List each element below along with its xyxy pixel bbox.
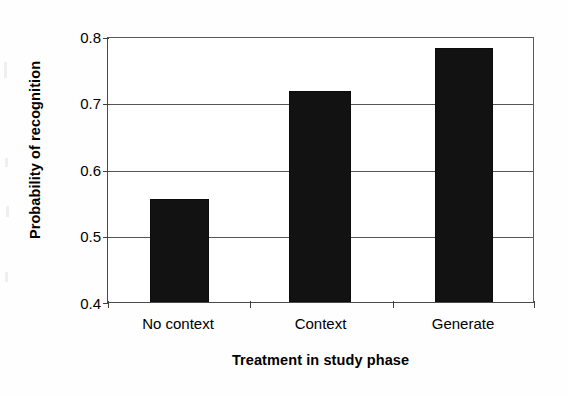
x-axis-tick-labels: No context Context Generate xyxy=(107,312,534,338)
y-tick-mark-0-5 xyxy=(103,237,109,238)
x-tick-mark-1 xyxy=(250,301,251,308)
scan-artifact xyxy=(5,272,8,282)
bar-no-context xyxy=(150,199,209,302)
x-tick-label-no-context: No context xyxy=(107,312,249,336)
y-tick-label: 0.4 xyxy=(57,296,101,311)
bar-context xyxy=(289,91,351,302)
y-tick-mark-0-6 xyxy=(103,171,109,172)
x-axis-title: Treatment in study phase xyxy=(107,352,534,368)
y-tick-mark-0-7 xyxy=(103,104,109,105)
scan-artifact xyxy=(6,206,9,217)
y-tick-label: 0.6 xyxy=(57,163,101,178)
y-axis-tick-labels: 0.8 0.7 0.6 0.5 0.4 xyxy=(55,0,101,396)
chart-figure: Probability of recognition 0.8 0.7 0.6 0… xyxy=(0,0,568,396)
scan-artifact xyxy=(4,62,7,78)
y-axis-title: Probability of recognition xyxy=(22,0,48,300)
x-tick-label-context: Context xyxy=(249,312,392,336)
y-tick-label: 0.8 xyxy=(57,30,101,45)
x-tick-label-generate: Generate xyxy=(392,312,534,336)
scan-artifact xyxy=(5,158,8,167)
bar-generate xyxy=(435,48,493,302)
x-tick-mark-2 xyxy=(393,301,394,308)
plot-area xyxy=(107,37,534,303)
y-tick-label: 0.7 xyxy=(57,96,101,111)
x-tick-mark-0 xyxy=(108,301,109,308)
y-tick-label: 0.5 xyxy=(57,229,101,244)
x-tick-mark-3 xyxy=(534,301,535,308)
y-tick-mark-0-8 xyxy=(103,38,109,39)
